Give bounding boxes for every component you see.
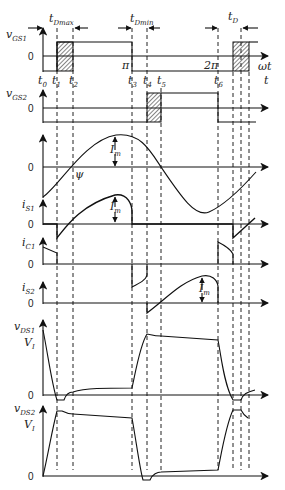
trace-i: 0 Im ψ bbox=[28, 135, 268, 213]
vds1-label: vDS1 bbox=[14, 320, 35, 335]
is1-label: iS1 bbox=[22, 198, 35, 213]
pi-label: π bbox=[121, 59, 130, 72]
trace-vds1: vDS1 VI 0 bbox=[14, 320, 268, 401]
zero-label: 0 bbox=[28, 471, 34, 482]
trace-vds2: vDS2 VI 0 bbox=[14, 402, 268, 482]
zero-label: 0 bbox=[28, 259, 34, 270]
td-label: tD bbox=[228, 10, 238, 25]
dead-time-annotations: tDmax tDmin tD bbox=[28, 10, 258, 28]
zero-label: 0 bbox=[28, 219, 34, 230]
trace-vgs1: vGS1 0 π 2π ωt t bbox=[6, 28, 272, 87]
trace-is2: iS2 0 Im bbox=[22, 276, 268, 313]
zero-label: 0 bbox=[28, 51, 34, 62]
svg-text:t0: t0 bbox=[38, 74, 47, 89]
vgs1-label: vGS1 bbox=[6, 28, 27, 43]
svg-text:t5: t5 bbox=[157, 74, 166, 89]
timing-diagram: tDmax tDmin tD vGS1 0 π 2π ωt t t0 t1 t2… bbox=[0, 0, 285, 490]
zero-label: 0 bbox=[28, 162, 34, 173]
vi-label: VI bbox=[24, 418, 35, 433]
ic1-label: iC1 bbox=[22, 236, 35, 251]
vi-label: VI bbox=[24, 336, 35, 351]
svg-text:t4: t4 bbox=[143, 74, 152, 89]
trace-ic1: iC1 0 bbox=[22, 236, 268, 287]
zero-label: 0 bbox=[28, 298, 34, 309]
psi-label: ψ bbox=[75, 168, 84, 181]
time-labels: t0 t1 t2 t3 t4 t5 t6 bbox=[38, 74, 223, 89]
zero-label: 0 bbox=[28, 103, 34, 114]
svg-text:t2: t2 bbox=[69, 74, 78, 89]
t-axis-label: t bbox=[264, 74, 269, 87]
tdmax-label: tDmax bbox=[49, 12, 74, 27]
vds2-label: vDS2 bbox=[14, 402, 36, 417]
im-label: Im bbox=[198, 282, 210, 297]
svg-text:t6: t6 bbox=[214, 74, 223, 89]
trace-is1: iS1 0 Im bbox=[22, 195, 268, 238]
tdmin-label: tDmin bbox=[130, 12, 154, 27]
svg-text:t3: t3 bbox=[128, 74, 137, 89]
svg-text:t1: t1 bbox=[52, 74, 61, 89]
vgs2-label: vGS2 bbox=[6, 87, 28, 102]
zero-label: 0 bbox=[28, 390, 34, 401]
omega-t-label: ωt bbox=[258, 60, 272, 73]
two-pi-label: 2π bbox=[203, 59, 219, 72]
is2-label: iS2 bbox=[22, 281, 35, 296]
trace-vgs2: vGS2 0 bbox=[6, 87, 268, 123]
